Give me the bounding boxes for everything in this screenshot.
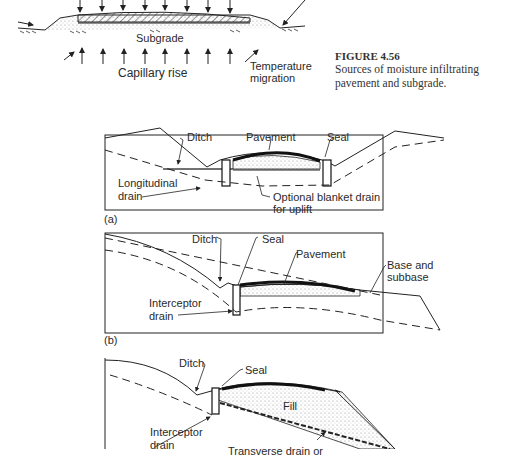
a-blanket-drain-label-2: for uplift <box>273 203 312 215</box>
subgrade-label: Subgrade <box>136 32 184 44</box>
c-fill-label: Fill <box>283 400 297 412</box>
capillary-rise-label: Capillary rise <box>118 67 187 79</box>
b-pavement-label: Pavement <box>296 248 346 260</box>
temperature-migration-label-1: Temperature <box>250 60 312 72</box>
panel-b-tag: (b) <box>104 334 117 346</box>
c-interceptor-label-1: Interceptor <box>150 426 203 438</box>
c-ditch-label: Ditch <box>179 357 204 369</box>
a-longitudinal-drain-label-2: drain <box>118 190 142 202</box>
b-base-label-1: Base and <box>387 259 433 271</box>
c-seal-label: Seal <box>245 364 267 376</box>
a-seal-label: Seal <box>327 131 349 143</box>
b-base-label-2: subbase <box>387 271 429 283</box>
c-transverse-drain-label: Transverse drain or <box>228 445 323 457</box>
a-blanket-drain-label-1: Optional blanket drain <box>273 191 380 203</box>
a-longitudinal-drain-label-1: Longitudinal <box>118 177 177 189</box>
b-interceptor-label-1: Interceptor <box>149 297 202 309</box>
temperature-migration-label-2: migration <box>250 72 295 84</box>
a-ditch-label: Ditch <box>187 131 212 143</box>
figure-title: FIGURE 4.56 <box>335 50 400 62</box>
b-seal-label: Seal <box>262 233 284 245</box>
panel-a-tag: (a) <box>104 213 117 225</box>
a-pavement-label: Pavement <box>246 131 296 143</box>
b-ditch-label: Ditch <box>192 233 217 245</box>
b-interceptor-label-2: drain <box>149 310 173 322</box>
c-interceptor-label-2: drain <box>150 439 174 451</box>
figure-caption: Sources of moisture infiltrating pavemen… <box>335 62 520 90</box>
